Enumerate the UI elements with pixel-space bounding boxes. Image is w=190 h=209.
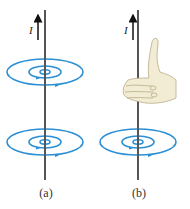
panel-b <box>100 10 176 180</box>
panel-label-a: (a) <box>31 186 61 201</box>
hand-icon <box>123 38 176 103</box>
direction-arrow-icons <box>36 77 59 157</box>
current-label-a: I <box>29 24 33 36</box>
panel-a <box>7 10 83 180</box>
panel-label-b: (b) <box>124 186 154 201</box>
current-label-b: I <box>124 24 128 36</box>
